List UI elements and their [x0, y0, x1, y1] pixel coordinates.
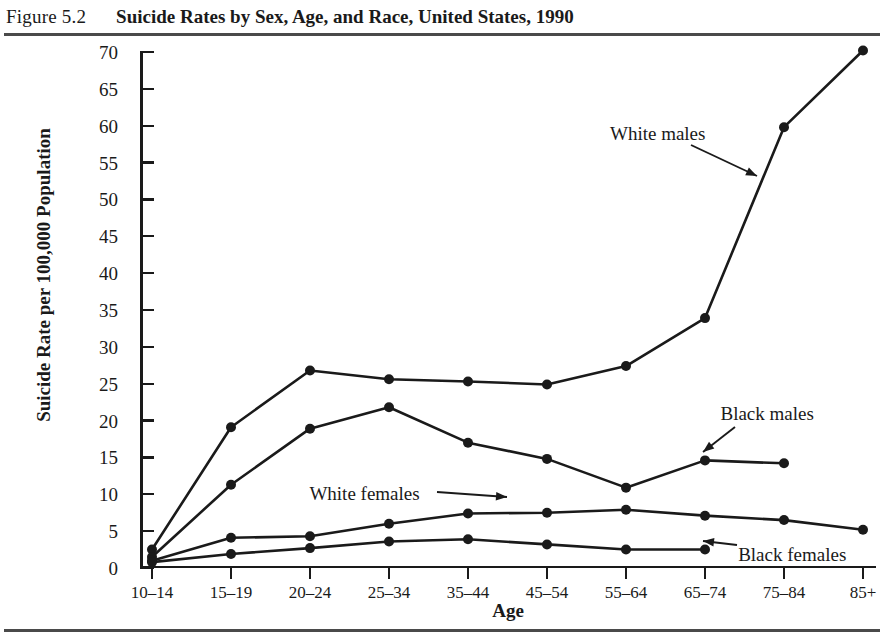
chart-plot-area: 0510152025303540455055606570 10–1415–192…	[140, 52, 876, 568]
data-point	[700, 455, 710, 465]
data-point	[384, 519, 394, 529]
figure-title: Suicide Rates by Sex, Age, and Race, Uni…	[116, 6, 574, 28]
y-tick-label-40: 40	[72, 264, 118, 283]
data-point	[463, 534, 473, 544]
y-tick-label-10: 10	[72, 485, 118, 504]
x-tick-label-6: 55–64	[581, 584, 671, 601]
annotation-label-2: White females	[309, 484, 419, 503]
x-tick-label-1: 15–19	[186, 584, 276, 601]
data-point	[305, 543, 315, 553]
x-tick-label-8: 75–84	[739, 584, 829, 601]
x-tick-label-0: 10–14	[107, 584, 197, 601]
y-tick-label-45: 45	[72, 227, 118, 246]
y-tick-label-65: 65	[72, 80, 118, 99]
annotation-label-3: Black females	[738, 545, 846, 564]
y-tick-label-60: 60	[72, 117, 118, 136]
data-point	[226, 480, 236, 490]
x-tick-label-3: 25–34	[344, 584, 434, 601]
data-point	[305, 531, 315, 541]
y-tick-label-5: 5	[72, 522, 118, 541]
data-point	[542, 508, 552, 518]
x-tick-label-9: 85+	[818, 584, 884, 601]
data-point	[226, 422, 236, 432]
data-point	[858, 525, 868, 535]
data-point	[621, 483, 631, 493]
header-divider-top	[4, 33, 880, 36]
y-tick-label-55: 55	[72, 154, 118, 173]
data-point	[779, 458, 789, 468]
y-tick-label-30: 30	[72, 338, 118, 357]
data-point	[779, 515, 789, 525]
annotation-label-0: White males	[610, 124, 706, 143]
data-point	[542, 454, 552, 464]
data-point	[226, 533, 236, 543]
y-tick-label-70: 70	[72, 43, 118, 62]
y-tick-label-50: 50	[72, 190, 118, 209]
y-tick-label-35: 35	[72, 301, 118, 320]
data-series-layer	[140, 52, 876, 568]
figure-container: Figure 5.2 Suicide Rates by Sex, Age, an…	[0, 0, 884, 637]
figure-header: Figure 5.2 Suicide Rates by Sex, Age, an…	[0, 0, 884, 34]
data-point	[463, 508, 473, 518]
data-point	[384, 374, 394, 384]
data-point	[463, 377, 473, 387]
x-tick-label-4: 35–44	[423, 584, 513, 601]
data-point	[305, 365, 315, 375]
data-point	[621, 361, 631, 371]
y-tick-label-20: 20	[72, 412, 118, 431]
figure-number: Figure 5.2	[6, 6, 86, 28]
data-point	[700, 545, 710, 555]
x-tick-label-7: 65–74	[660, 584, 750, 601]
x-axis-title: Age	[140, 600, 876, 622]
x-tick-label-5: 45–54	[502, 584, 592, 601]
data-point	[384, 402, 394, 412]
data-point	[700, 511, 710, 521]
data-point	[542, 539, 552, 549]
x-tick-label-2: 20–24	[265, 584, 355, 601]
y-tick-label-15: 15	[72, 448, 118, 467]
data-point	[463, 438, 473, 448]
data-point	[147, 557, 157, 567]
data-point	[858, 46, 868, 56]
data-point	[779, 122, 789, 132]
data-point	[621, 505, 631, 515]
data-point	[226, 549, 236, 559]
data-point	[542, 379, 552, 389]
y-axis-title: Suicide Rate per 100,000 Population	[33, 65, 55, 485]
y-tick-label-0: 0	[72, 559, 118, 578]
annotation-label-1: Black males	[720, 404, 813, 423]
data-point	[305, 424, 315, 434]
series-line-0	[152, 51, 863, 550]
data-point	[700, 313, 710, 323]
footer-divider-bottom	[4, 629, 880, 632]
data-point	[621, 545, 631, 555]
y-tick-label-25: 25	[72, 375, 118, 394]
data-point	[384, 536, 394, 546]
